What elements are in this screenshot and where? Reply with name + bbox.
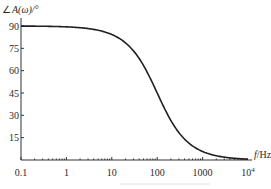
phase-chart: ∠A(ω)/° 907560453015 0.11101001000104 f/… [0, 0, 271, 189]
x-tick-label: 1 [64, 167, 69, 178]
y-axis-ticks: 907560453015 [9, 21, 24, 144]
x-tick-label: 104 [241, 166, 255, 178]
y-tick-label: 45 [9, 88, 19, 99]
y-tick-label: 75 [9, 43, 19, 54]
y-tick-label: 90 [9, 21, 19, 32]
y-axis-title: ∠A(ω)/° [2, 4, 39, 16]
phase-curve [21, 26, 248, 159]
faint-caption [120, 183, 210, 185]
x-tick-label: 1000 [193, 167, 213, 178]
x-axis-title: f/Hz [254, 149, 271, 160]
x-tick-label: 100 [150, 167, 165, 178]
y-tick-label: 30 [9, 110, 19, 121]
x-tick-label: 10 [107, 167, 117, 178]
x-tick-label: 0.1 [15, 167, 28, 178]
y-tick-label: 60 [9, 65, 19, 76]
y-tick-label: 15 [9, 132, 19, 143]
